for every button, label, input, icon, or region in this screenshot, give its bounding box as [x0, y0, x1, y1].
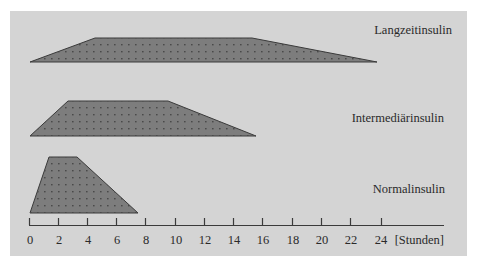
series-intermediaerinsulin	[30, 101, 256, 136]
tick-label: 14	[228, 233, 241, 247]
series-langzeitinsulin	[30, 38, 377, 62]
insulin-chart: Langzeitinsulin Intermediärinsulin Norma…	[0, 0, 480, 266]
tick-label: 22	[345, 233, 358, 247]
x-axis: 0 2 4 6 8 10 12 14 16 18 20 22 24 [Stund…	[27, 218, 444, 247]
tick-label: 6	[114, 233, 120, 247]
label-langzeitinsulin: Langzeitinsulin	[374, 23, 453, 37]
tick-label: 16	[257, 233, 270, 247]
tick-label: 20	[316, 233, 329, 247]
tick-label: 2	[56, 233, 62, 247]
tick-label: 18	[287, 233, 300, 247]
x-axis-ticks	[30, 218, 382, 225]
tick-label: 4	[85, 233, 92, 247]
label-intermediaerinsulin: Intermediärinsulin	[352, 111, 445, 125]
tick-label: 10	[170, 233, 183, 247]
label-normalinsulin: Normalinsulin	[373, 182, 446, 196]
tick-label: 24	[375, 233, 388, 247]
tick-label: 8	[143, 233, 149, 247]
x-axis-unit-label: [Stunden]	[395, 233, 444, 247]
series-normalinsulin	[30, 157, 138, 213]
tick-label: 0	[27, 233, 33, 247]
tick-label: 12	[199, 233, 212, 247]
x-axis-tick-labels: 0 2 4 6 8 10 12 14 16 18 20 22 24	[27, 233, 388, 247]
